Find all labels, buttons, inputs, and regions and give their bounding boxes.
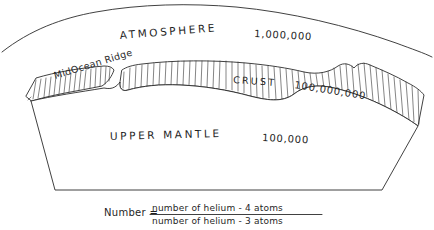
earth-layers-diagram: ATMOSPHERE 1,000,000 MidOcean Ridge CRUS…	[0, 0, 434, 230]
formula-numerator: number of helium - 4 atoms	[152, 203, 283, 213]
definition-formula: Number = number of helium - 4 atoms numb…	[104, 203, 322, 226]
formula-lead-label: Number =	[104, 207, 158, 218]
atmosphere-label-group: ATMOSPHERE 1,000,000	[119, 21, 312, 42]
diagram-canvas: ATMOSPHERE 1,000,000 MidOcean Ridge CRUS…	[0, 0, 434, 230]
formula-denominator: number of helium - 3 atoms	[152, 216, 283, 226]
atmosphere-value: 1,000,000	[254, 28, 313, 42]
atmosphere-label: ATMOSPHERE	[119, 21, 217, 41]
